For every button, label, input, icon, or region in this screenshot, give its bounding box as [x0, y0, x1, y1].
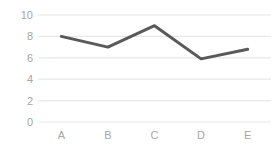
x-tick-label-d: D	[197, 129, 205, 141]
y-tick-label-8: 8	[27, 30, 33, 42]
y-tick-label-0: 0	[27, 116, 33, 128]
data-series-line	[61, 26, 247, 59]
y-tick-label-6: 6	[27, 52, 33, 64]
x-tick-label-c: C	[151, 129, 159, 141]
line-chart: 10 8 6 4 2 0 A B C D E	[0, 0, 279, 152]
chart-canvas: 10 8 6 4 2 0 A B C D E	[0, 0, 279, 152]
y-tick-label-10: 10	[21, 9, 33, 21]
gridlines	[38, 15, 271, 122]
series-1-polyline	[61, 26, 247, 59]
x-axis-tick-labels: A B C D E	[58, 129, 252, 141]
x-tick-label-b: B	[104, 129, 111, 141]
x-tick-label-a: A	[58, 129, 66, 141]
y-axis-tick-labels: 10 8 6 4 2 0	[21, 9, 33, 128]
x-tick-label-e: E	[244, 129, 251, 141]
y-tick-label-2: 2	[27, 95, 33, 107]
y-tick-label-4: 4	[27, 73, 33, 85]
